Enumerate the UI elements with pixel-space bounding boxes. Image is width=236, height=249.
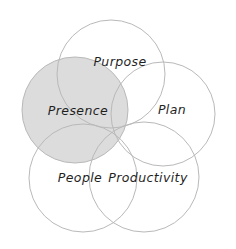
label-presence: Presence xyxy=(48,103,108,118)
label-productivity: Productivity xyxy=(108,170,188,185)
venn-diagram: PurposePlanProductivityPeoplePresence xyxy=(0,0,236,249)
label-people: People xyxy=(58,170,102,185)
venn-diagram-canvas: PurposePlanProductivityPeoplePresence xyxy=(0,0,236,249)
label-purpose: Purpose xyxy=(93,54,146,69)
label-plan: Plan xyxy=(158,102,186,117)
